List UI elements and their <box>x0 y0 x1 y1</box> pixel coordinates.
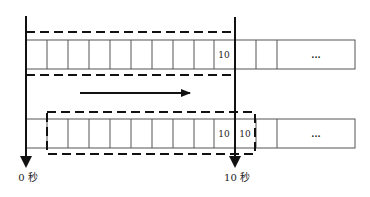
axis-end-label: 10 秒 <box>224 171 250 183</box>
axis-start-label: 0 秒 <box>18 171 38 183</box>
row-1-ellipsis: ... <box>311 50 320 60</box>
down-arrow-icon <box>229 156 241 168</box>
row-2-cell-10a: 10 <box>218 129 230 139</box>
down-arrow-icon <box>20 156 32 168</box>
axis-end: 10 秒 <box>224 17 250 183</box>
sliding-window-diagram: 10 ... 10 10 <box>0 0 370 197</box>
row-2-ellipsis: ... <box>311 129 320 139</box>
row-1-cell-10: 10 <box>218 50 230 60</box>
row-2: 10 10 ... <box>26 112 355 154</box>
diagram-svg: 10 ... 10 10 <box>0 0 370 197</box>
row-1: 10 ... <box>26 32 355 75</box>
axis-start: 0 秒 <box>18 16 38 183</box>
row-2-cell-10b: 10 <box>239 129 251 139</box>
